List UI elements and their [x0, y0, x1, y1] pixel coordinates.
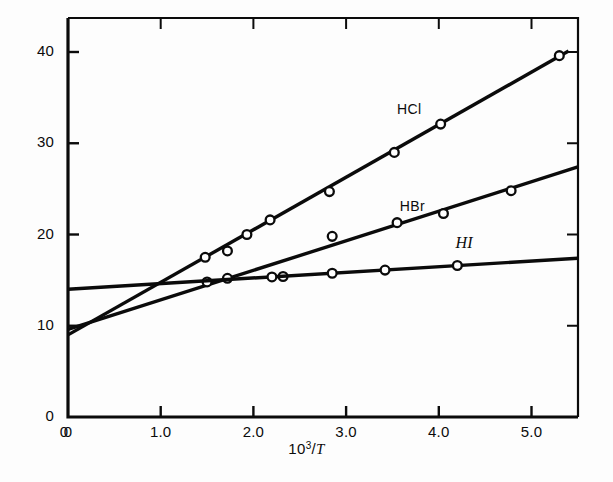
y-tick-label: 20: [37, 225, 54, 242]
axis-frame: [68, 18, 578, 417]
x-tick-label: 2.0: [243, 423, 264, 440]
series-annotation-hbr: HBr: [400, 198, 425, 214]
figure-container: MOLAR POLARIZATION, Pm, cc 103/T 0102030…: [0, 0, 613, 482]
data-point-marker: [507, 186, 516, 195]
data-point-marker: [266, 216, 275, 225]
series-hi: [68, 258, 578, 289]
axis-ticks: [68, 18, 578, 417]
y-tick-label: 10: [37, 316, 54, 333]
origin-extra-label: 0: [60, 423, 69, 440]
y-tick-label: 40: [37, 42, 54, 59]
y-tick-label: 30: [37, 133, 54, 150]
data-point-marker: [328, 269, 337, 278]
x-tick-label: 5.0: [521, 423, 542, 440]
series-annotation-hcl: HCl: [397, 101, 421, 117]
data-point-marker: [555, 51, 564, 60]
data-point-marker: [328, 232, 337, 241]
x-tick-label: 3.0: [335, 423, 356, 440]
data-point-marker: [439, 209, 448, 218]
data-point-marker: [393, 218, 402, 227]
chart-plot: [0, 0, 613, 482]
axis-spine-left-bottom: [68, 18, 578, 417]
data-point-marker: [325, 187, 334, 196]
data-point-marker: [453, 261, 462, 270]
series-annotation-hi: HI: [455, 234, 472, 252]
y-tick-label: 0: [45, 407, 54, 424]
data-point-marker: [390, 148, 399, 157]
data-point-marker: [201, 253, 210, 262]
x-tick-label: 1.0: [150, 423, 171, 440]
axis-spine-top-right: [68, 18, 578, 417]
data-point-marker: [381, 266, 390, 275]
data-point-marker: [436, 120, 445, 129]
x-axis-label-base: 10: [288, 440, 305, 457]
data-point-marker: [243, 230, 252, 239]
data-point-marker: [268, 273, 277, 282]
x-axis-label: 103/T: [0, 440, 613, 458]
x-axis-label-variable: T: [316, 441, 325, 457]
data-point-marker: [223, 247, 232, 256]
x-tick-label: 4.0: [428, 423, 449, 440]
series-line: [68, 258, 578, 289]
